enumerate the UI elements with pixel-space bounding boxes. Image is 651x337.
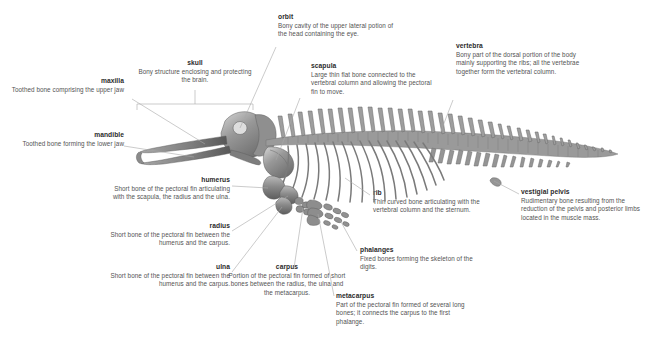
metacarpus-leader: [318, 214, 334, 296]
carpus-leader: [294, 208, 303, 268]
scapula-leader: [276, 98, 300, 160]
maxilla-leader: [132, 99, 205, 144]
phalanges-leader: [340, 220, 357, 251]
humerus-leader: [232, 186, 268, 188]
ulna-leader: [232, 207, 282, 272]
mandible-leader: [124, 146, 194, 157]
radius-leader: [232, 196, 288, 231]
skull-bracket: [137, 104, 253, 110]
leader-lines: [0, 0, 651, 337]
vestigial-pelvis-leader: [494, 181, 519, 194]
whale-skeleton-figure: maxilla Toothed bone comprising the uppe…: [0, 0, 651, 337]
vertebra-leader: [441, 100, 453, 131]
rib-leader: [345, 178, 370, 195]
orbit-leader: [240, 47, 276, 128]
